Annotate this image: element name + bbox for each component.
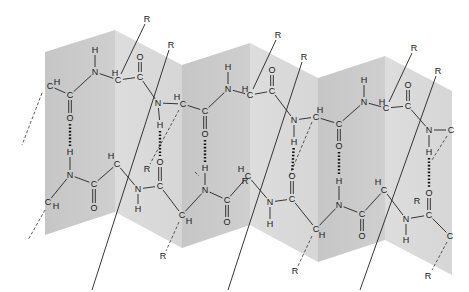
- atom-o: O: [156, 157, 163, 167]
- atom-c: C: [313, 112, 320, 122]
- atom-h: H: [336, 176, 343, 186]
- atom-h: H: [291, 137, 298, 147]
- atom-c: C: [157, 181, 164, 191]
- atom-n: N: [67, 170, 74, 180]
- atom-c: C: [247, 90, 254, 100]
- atom-c: C: [114, 159, 121, 169]
- atom-n: N: [361, 97, 368, 107]
- atom-h: H: [53, 201, 60, 211]
- side-chain-r-label: R: [160, 251, 167, 261]
- atom-c: C: [289, 194, 296, 204]
- beta-sheet-diagram: CHCOHNHCOCNHHCCOHNHCOCNHHCCOHNHCOCNCHHNC…: [0, 0, 469, 292]
- atom-o: O: [136, 52, 143, 62]
- beta-pleated-sheet-figure: CHCOHNHCOCNHHCCOHNHCOCNHHCCOHNHCOCNCHHNC…: [0, 0, 469, 292]
- atom-c: C: [381, 185, 388, 195]
- side-chain-r-label: R: [168, 40, 175, 50]
- sheet-plane-4: [250, 43, 318, 262]
- atom-c: C: [447, 231, 454, 241]
- atom-o: O: [90, 203, 97, 213]
- side-chain-r-label: R: [292, 266, 299, 276]
- atom-c: C: [67, 90, 74, 100]
- atom-c: C: [448, 125, 455, 135]
- atom-c: C: [383, 103, 390, 113]
- atom-h: H: [157, 120, 164, 130]
- side-chain-r-label: R: [144, 164, 151, 174]
- atom-c: C: [269, 86, 276, 96]
- atom-o: O: [223, 217, 230, 227]
- side-chain-r-label: R: [275, 30, 282, 40]
- atom-c: C: [336, 119, 343, 129]
- atom-c: C: [426, 210, 433, 220]
- atom-h: H: [92, 45, 99, 55]
- atom-c: C: [180, 99, 187, 109]
- atom-h: H: [319, 230, 326, 240]
- atom-h: H: [67, 147, 74, 157]
- atom-n: N: [155, 98, 162, 108]
- atom-h: H: [135, 204, 142, 214]
- atom-n: N: [336, 200, 343, 210]
- atom-h: H: [54, 77, 61, 87]
- atom-n: N: [92, 67, 99, 77]
- atom-o: O: [288, 171, 295, 181]
- side-chain-r-label: R: [435, 66, 442, 76]
- atom-h: H: [426, 147, 433, 157]
- atom-h: H: [225, 62, 232, 72]
- side-chain-r-label: R: [301, 52, 308, 62]
- side-chain-r-label: R: [144, 14, 151, 24]
- atom-c: C: [224, 195, 231, 205]
- atom-o: O: [358, 231, 365, 241]
- atom-n: N: [202, 185, 209, 195]
- atom-c: C: [45, 197, 52, 207]
- atom-n: N: [225, 84, 232, 94]
- atom-o: O: [66, 113, 73, 123]
- atom-c: C: [47, 81, 54, 91]
- atom-n: N: [267, 197, 274, 207]
- atom-c: C: [115, 75, 122, 85]
- atom-o: O: [268, 65, 275, 75]
- side-chain-r-label: R: [411, 43, 418, 53]
- atom-c: C: [359, 209, 366, 219]
- side-chain-r-label: R: [242, 176, 249, 186]
- atom-c: C: [137, 72, 144, 82]
- atom-h: H: [238, 164, 245, 174]
- pleated-sheet-planes: [45, 30, 452, 275]
- atom-c: C: [202, 106, 209, 116]
- atom-o: O: [404, 80, 411, 90]
- side-chain-r-label: R: [425, 271, 432, 281]
- atom-o: O: [201, 129, 208, 139]
- atom-h: H: [267, 219, 274, 229]
- atom-c: C: [91, 179, 98, 189]
- atom-h: H: [403, 235, 410, 245]
- atom-c: C: [405, 101, 412, 111]
- atom-c: C: [179, 210, 186, 220]
- atom-h: H: [202, 163, 209, 173]
- atom-o: O: [425, 188, 432, 198]
- atom-o: O: [335, 141, 342, 151]
- atom-h: H: [361, 75, 368, 85]
- atom-h: H: [186, 216, 193, 226]
- atom-n: N: [291, 115, 298, 125]
- sheet-plane-5: [318, 56, 385, 262]
- sheet-plane-2: [115, 30, 182, 248]
- atom-n: N: [135, 184, 142, 194]
- atom-n: N: [403, 214, 410, 224]
- atom-n: N: [426, 125, 433, 135]
- side-chain-r-label: R: [414, 196, 421, 206]
